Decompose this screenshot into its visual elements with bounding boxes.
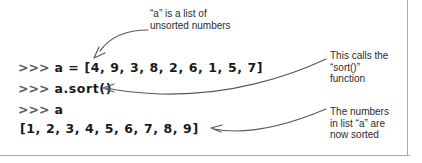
arrow-to-list-literal-head [94, 47, 105, 58]
arrow-overlay [0, 0, 422, 163]
figure-container: >>> a = [4, 9, 3, 8, 2, 6, 1, 5, 7] >>> … [0, 0, 422, 163]
arrow-to-sort-call-path [106, 59, 326, 94]
arrow-to-sorted-output-head [211, 125, 222, 132]
arrow-to-list-literal-path [100, 30, 148, 51]
arrow-to-sorted-output-path [214, 109, 326, 131]
